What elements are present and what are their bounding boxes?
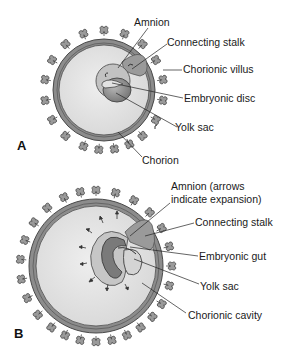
panel-letter-b: B: [14, 326, 23, 341]
label-amnion-b-line1: Amnion (arrows: [171, 180, 245, 192]
yolk-sac-b: [124, 249, 143, 275]
panel-a-diagram: [41, 26, 183, 157]
diagram-canvas: [0, 0, 282, 351]
label-yolk-sac-a: Yolk sac: [175, 121, 214, 133]
label-chorion-a: Chorion: [142, 154, 179, 166]
label-amnion-b-line2: indicate expansion): [171, 193, 261, 205]
label-amnion-a: Amnion: [134, 16, 170, 28]
panel-b-diagram: [16, 186, 199, 345]
label-embryonic-disc-a: Embryonic disc: [184, 92, 255, 104]
label-embryonic-gut-b: Embryonic gut: [199, 250, 266, 262]
label-yolk-sac-b: Yolk sac: [200, 280, 239, 292]
label-chorionic-villus-a: Chorionic villus: [183, 63, 254, 75]
label-chorionic-cavity-b: Chorionic cavity: [188, 309, 262, 321]
label-connecting-stalk-a: Connecting stalk: [167, 36, 245, 48]
panel-letter-a: A: [17, 138, 26, 153]
label-connecting-stalk-b: Connecting stalk: [195, 216, 273, 228]
